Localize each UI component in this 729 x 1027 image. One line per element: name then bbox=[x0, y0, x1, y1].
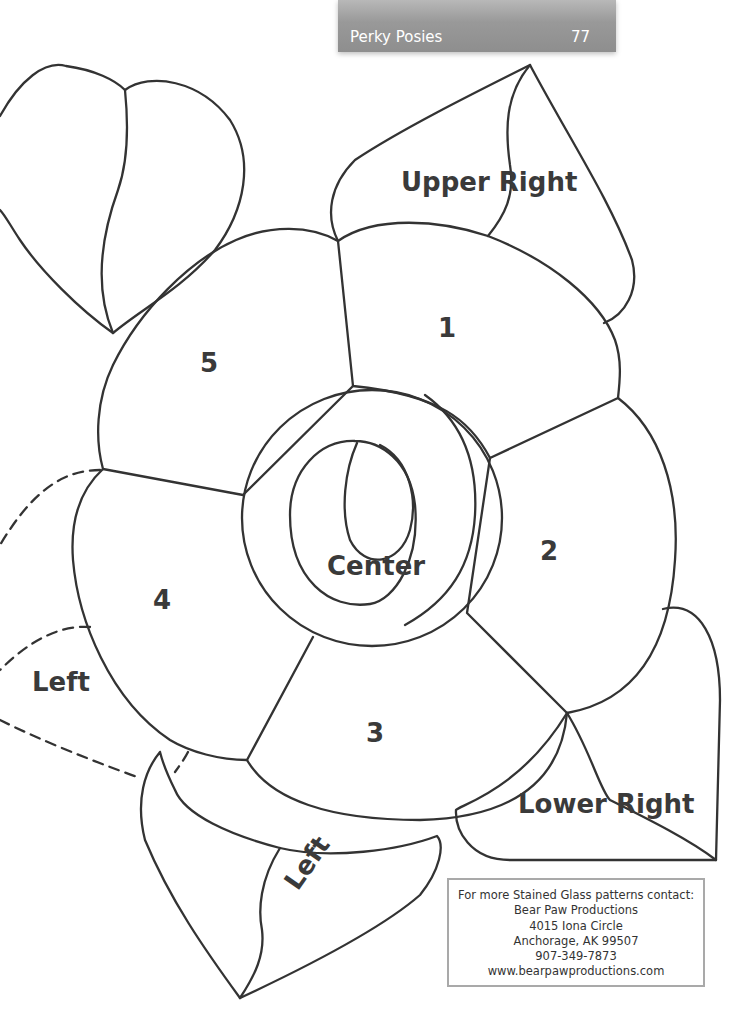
contact-heading: For more Stained Glass patterns contact: bbox=[449, 888, 703, 903]
label-lower-right: Lower Right bbox=[518, 789, 694, 819]
top-left-leaf bbox=[0, 65, 244, 333]
label-petal-5: 5 bbox=[200, 348, 218, 378]
label-petal-2: 2 bbox=[540, 536, 558, 566]
contact-city: Anchorage, AK 99507 bbox=[449, 934, 703, 949]
contact-box: For more Stained Glass patterns contact:… bbox=[447, 878, 705, 987]
petal-4 bbox=[72, 469, 313, 760]
stained-glass-pattern bbox=[0, 0, 729, 1027]
contact-company: Bear Paw Productions bbox=[449, 903, 703, 918]
petal-1 bbox=[338, 223, 620, 458]
label-petal-1: 1 bbox=[438, 313, 456, 343]
contact-phone: 907-349-7873 bbox=[449, 949, 703, 964]
contact-website: www.bearpawproductions.com bbox=[449, 964, 703, 979]
label-upper-right: Upper Right bbox=[401, 167, 577, 197]
lower-right-leaf bbox=[456, 608, 720, 860]
center-rings bbox=[242, 390, 502, 646]
label-petal-4: 4 bbox=[153, 585, 171, 615]
label-petal-3: 3 bbox=[366, 718, 384, 748]
petal-2 bbox=[467, 398, 676, 713]
label-left-dashed: Left bbox=[32, 667, 90, 697]
label-center: Center bbox=[327, 551, 425, 581]
contact-street: 4015 Iona Circle bbox=[449, 919, 703, 934]
